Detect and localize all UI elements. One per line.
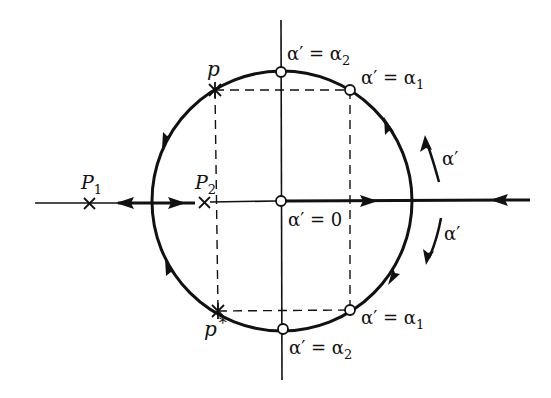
pole-P2-icon <box>199 197 210 208</box>
label-alpha2-top: α′ = α2 <box>287 43 350 68</box>
label-alpha-down: α′ <box>444 223 460 244</box>
horizontal-axis-thin-mid <box>210 201 276 202</box>
circle-arrow-down-icon <box>388 268 400 285</box>
label-alpha-up: α′ <box>442 148 458 169</box>
label-P2: P2 <box>194 171 216 197</box>
real-axis-locus <box>116 194 530 209</box>
label-alpha2-bottom: α′ = α2 <box>289 337 352 362</box>
label-P1: P1 <box>80 171 102 197</box>
alpha1-bottom-marker-icon <box>345 305 355 315</box>
label-alpha-zero: α′ = 0 <box>288 209 342 230</box>
label-p: p <box>207 57 220 81</box>
circle-arrow-down-left-icon <box>162 132 172 150</box>
alpha1-top-marker-icon <box>345 85 355 95</box>
root-locus-diagram: p p* P1 P2 α′ = 0 α′ = α2 α′ = α1 α′ = α… <box>0 0 551 398</box>
label-alpha1-top: α′ = α1 <box>361 67 424 92</box>
label-alpha1-bottom: α′ = α1 <box>361 307 424 332</box>
circle-arrow-up-left-icon <box>165 258 175 276</box>
alpha2-top-marker-icon <box>276 67 286 77</box>
poles <box>84 82 224 319</box>
alpha-zero-marker-icon <box>276 196 286 206</box>
alpha2-bottom-marker-icon <box>278 324 288 334</box>
label-p-star: p* <box>204 314 227 341</box>
